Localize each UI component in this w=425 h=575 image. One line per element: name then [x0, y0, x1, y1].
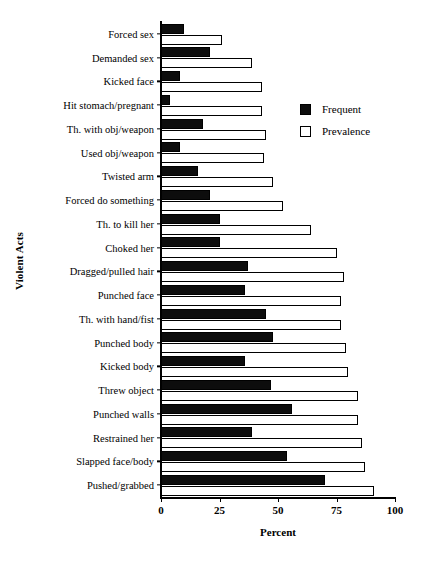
bar-frequent — [161, 451, 287, 461]
chart-legend: FrequentPrevalence — [300, 98, 370, 142]
chart-row: Kicked body — [161, 355, 395, 379]
category-label: Punched face — [98, 290, 154, 301]
chart-row: Th. to kill her — [161, 212, 395, 236]
category-label: Kicked face — [104, 76, 154, 87]
bar-prevalence — [161, 272, 344, 282]
bar-frequent — [161, 24, 184, 34]
category-label: Th. to kill her — [96, 218, 154, 229]
category-label: Used obj/weapon — [81, 147, 154, 158]
category-label: Forced do something — [65, 195, 154, 206]
chart-row: Twisted arm — [161, 165, 395, 189]
bar-prevalence — [161, 82, 262, 92]
bar-prevalence — [161, 35, 222, 45]
bar-prevalence — [161, 130, 266, 140]
x-axis-tick-label: 0 — [158, 504, 164, 516]
category-label: Demanded sex — [92, 52, 154, 63]
bar-frequent — [161, 356, 245, 366]
chart-row: Forced do something — [161, 188, 395, 212]
bar-prevalence — [161, 201, 283, 211]
bar-prevalence — [161, 438, 362, 448]
legend-label: Frequent — [322, 103, 361, 115]
chart-row: Choked her — [161, 236, 395, 260]
y-axis-title: Violent Acts — [13, 211, 25, 311]
bar-prevalence — [161, 248, 337, 258]
chart-row: Pushed/grabbed — [161, 473, 395, 497]
bar-frequent — [161, 166, 198, 176]
category-label: Th. with hand/fist — [79, 313, 154, 324]
bar-frequent — [161, 47, 210, 57]
bar-frequent — [161, 404, 292, 414]
bar-prevalence — [161, 296, 341, 306]
bar-frequent — [161, 427, 252, 437]
x-axis-tick — [337, 497, 338, 502]
bar-frequent — [161, 119, 203, 129]
chart-row: Slapped face/body — [161, 450, 395, 474]
bar-frequent — [161, 261, 248, 271]
category-label: Pushed/grabbed — [87, 480, 154, 491]
bar-frequent — [161, 380, 271, 390]
bar-prevalence — [161, 391, 358, 401]
x-axis-tick — [161, 497, 162, 502]
chart-row: Threw object — [161, 378, 395, 402]
bar-prevalence — [161, 106, 262, 116]
bar-chart: Violent Acts Forced sexDemanded sexKicke… — [0, 0, 425, 575]
bar-prevalence — [161, 343, 346, 353]
x-axis-tick — [395, 497, 396, 502]
legend-item: Frequent — [300, 98, 370, 120]
filled-square-icon — [300, 104, 311, 115]
bar-frequent — [161, 190, 210, 200]
bar-prevalence — [161, 58, 252, 68]
chart-row: Demanded sex — [161, 46, 395, 70]
x-axis-tick-label: 25 — [214, 504, 225, 516]
chart-row: Used obj/weapon — [161, 141, 395, 165]
category-label: Choked her — [105, 242, 154, 253]
x-axis-title: Percent — [161, 526, 395, 538]
legend-item: Prevalence — [300, 120, 370, 142]
chart-row: Restrained her — [161, 426, 395, 450]
category-label: Restrained her — [93, 432, 154, 443]
bar-prevalence — [161, 462, 365, 472]
chart-row: Th. with hand/fist — [161, 307, 395, 331]
bar-frequent — [161, 285, 245, 295]
bar-frequent — [161, 309, 266, 319]
category-label: Threw object — [98, 385, 154, 396]
bar-prevalence — [161, 367, 348, 377]
bar-frequent — [161, 332, 273, 342]
plot-area: Forced sexDemanded sexKicked faceHit sto… — [161, 22, 395, 497]
legend-label: Prevalence — [322, 125, 370, 137]
category-label: Twisted arm — [102, 171, 154, 182]
bar-prevalence — [161, 415, 358, 425]
chart-row: Punched body — [161, 331, 395, 355]
bar-prevalence — [161, 486, 374, 496]
category-label: Punched walls — [93, 408, 154, 419]
bar-frequent — [161, 214, 220, 224]
bar-frequent — [161, 71, 180, 81]
x-axis-tick-label: 75 — [331, 504, 342, 516]
bar-frequent — [161, 475, 325, 485]
x-axis-tick-label: 100 — [387, 504, 404, 516]
open-square-icon — [300, 126, 311, 137]
chart-row: Kicked face — [161, 70, 395, 94]
chart-row: Dragged/pulled hair — [161, 260, 395, 284]
bar-frequent — [161, 237, 220, 247]
bar-prevalence — [161, 320, 341, 330]
category-label: Forced sex — [108, 28, 154, 39]
category-label: Punched body — [94, 337, 154, 348]
bar-frequent — [161, 142, 180, 152]
x-axis-tick — [220, 497, 221, 502]
chart-row: Punched face — [161, 283, 395, 307]
bar-prevalence — [161, 225, 311, 235]
x-axis-tick — [278, 497, 279, 502]
category-label: Dragged/pulled hair — [70, 266, 154, 277]
chart-row: Forced sex — [161, 22, 395, 46]
category-label: Slapped face/body — [76, 456, 154, 467]
bar-prevalence — [161, 153, 264, 163]
category-label: Kicked body — [100, 361, 154, 372]
category-label: Th. with obj/weapon — [67, 123, 154, 134]
bar-prevalence — [161, 177, 273, 187]
chart-row: Punched walls — [161, 402, 395, 426]
bar-frequent — [161, 95, 170, 105]
x-axis-tick-label: 50 — [273, 504, 284, 516]
category-label: Hit stomach/pregnant — [63, 100, 154, 111]
